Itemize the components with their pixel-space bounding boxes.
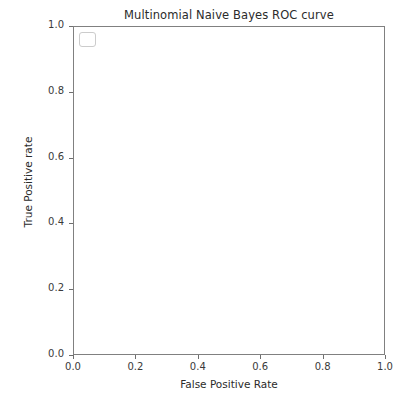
plot-area bbox=[73, 26, 385, 355]
x-tick-label: 0.6 bbox=[240, 361, 280, 372]
y-tick-mark bbox=[69, 223, 73, 224]
x-tick-mark bbox=[198, 355, 199, 359]
y-tick-label: 0.2 bbox=[26, 282, 64, 293]
x-tick-mark bbox=[73, 355, 74, 359]
y-tick-label: 0.8 bbox=[26, 85, 64, 96]
x-tick-label: 0.4 bbox=[178, 361, 218, 372]
x-tick-mark bbox=[135, 355, 136, 359]
y-axis-label: True Positive rate bbox=[22, 102, 34, 262]
x-tick-label: 0.2 bbox=[115, 361, 155, 372]
y-tick-label: 0.0 bbox=[26, 348, 64, 359]
chart-title: Multinomial Naive Bayes ROC curve bbox=[73, 8, 385, 22]
legend-box[interactable] bbox=[79, 32, 96, 47]
y-tick-label: 1.0 bbox=[26, 19, 64, 30]
plot-svg bbox=[74, 27, 384, 354]
x-tick-mark bbox=[260, 355, 261, 359]
x-tick-mark bbox=[323, 355, 324, 359]
y-tick-mark bbox=[69, 355, 73, 356]
x-tick-mark bbox=[385, 355, 386, 359]
x-tick-label: 0.0 bbox=[53, 361, 93, 372]
y-tick-mark bbox=[69, 26, 73, 27]
chance-diagonal-group bbox=[74, 27, 384, 354]
y-tick-mark bbox=[69, 158, 73, 159]
chance-diagonal-line bbox=[74, 27, 384, 354]
roc-curve-figure: Multinomial Naive Bayes ROC curve 0.00.2… bbox=[0, 0, 408, 410]
x-tick-label: 0.8 bbox=[303, 361, 343, 372]
x-axis-label: False Positive Rate bbox=[73, 378, 385, 390]
y-tick-mark bbox=[69, 289, 73, 290]
x-tick-label: 1.0 bbox=[365, 361, 405, 372]
y-tick-mark bbox=[69, 92, 73, 93]
